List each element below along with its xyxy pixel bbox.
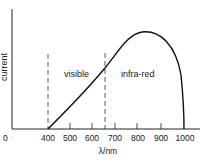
tick-label-1000: 1000 — [176, 133, 195, 143]
tick-label-900: 900 — [154, 133, 168, 143]
region-label-visible: visible — [64, 69, 89, 79]
y-axis-label: current — [0, 52, 9, 81]
x-axis-label: λ/nm — [99, 146, 117, 156]
x-ticks — [70, 123, 161, 129]
tick-label-500: 500 — [63, 133, 77, 143]
current-curve — [48, 32, 184, 129]
tick-label-800: 800 — [131, 133, 145, 143]
tick-label-700: 700 — [108, 133, 122, 143]
chart: current visible infra-red 0 400 500 600 … — [0, 0, 204, 164]
tick-label-600: 600 — [85, 133, 99, 143]
origin-label: 0 — [3, 133, 8, 143]
region-label-infrared: infra-red — [121, 69, 155, 79]
tick-label-400: 400 — [41, 133, 55, 143]
